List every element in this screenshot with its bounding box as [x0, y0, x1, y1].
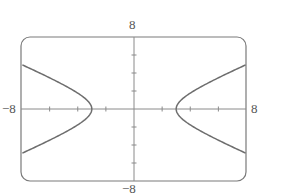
- x-max-label: 8: [251, 102, 258, 115]
- y-max-label: 8: [129, 18, 136, 31]
- x-min-label: −8: [2, 102, 16, 115]
- calculator-graph-screen: [0, 0, 297, 195]
- y-min-label: −8: [122, 182, 136, 195]
